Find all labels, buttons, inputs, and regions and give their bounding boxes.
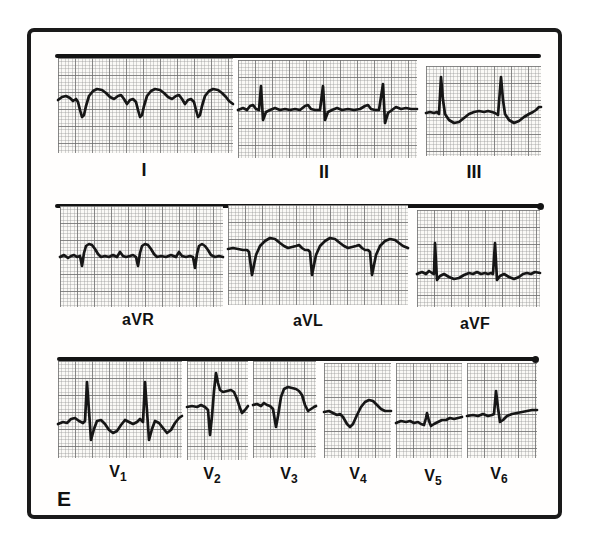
ecg-grid-panel-v4 [324, 363, 391, 458]
ecg-trace-v1 [58, 361, 182, 458]
ecg-grid-panel-v1 [58, 361, 182, 458]
lead-label-v4: V4 [349, 465, 366, 486]
ecg-grid-panel-v2 [187, 361, 248, 460]
ecg-trace-v6 [467, 363, 537, 458]
ecg-grid-panel-iii [426, 66, 541, 156]
figure-panel-label: E [57, 487, 71, 511]
lead-label-subscript-v3: 3 [291, 472, 298, 486]
lead-label-subscript-v6: 6 [501, 472, 508, 486]
ecg-trace-avf [417, 210, 540, 307]
lead-label-ii: II [319, 162, 329, 183]
lead-label-subscript-v2: 2 [214, 472, 221, 486]
lead-label-subscript-v4: 4 [360, 472, 367, 486]
lead-label-v5: V5 [424, 467, 441, 488]
ecg-trace-v5 [396, 363, 462, 458]
ecg-grid-panel-avr [60, 206, 223, 307]
ecg-trace-avr [60, 206, 223, 307]
ecg-trace-v4 [324, 363, 391, 458]
ecg-figure: IIIIIIaVRaVLaVFV1V2V3V4V5V6 E [0, 0, 589, 552]
ecg-trace-i [58, 58, 233, 153]
lead-label-v6: V6 [490, 465, 507, 486]
strip-rule-end-dot [537, 203, 544, 210]
lead-label-i: I [141, 160, 146, 181]
ecg-grid-panel-ii [238, 60, 417, 158]
ecg-grid-panel-v6 [467, 363, 537, 458]
ecg-grid-panel-i [58, 58, 233, 153]
ecg-trace-v2 [187, 361, 248, 460]
lead-label-subscript-v1: 1 [120, 470, 127, 484]
ecg-grid-panel-v3 [253, 361, 316, 458]
ecg-grid-panel-v5 [396, 363, 462, 458]
lead-label-v2: V2 [203, 465, 220, 486]
ecg-grid-panel-avf [417, 210, 540, 307]
ecg-trace-iii [426, 66, 541, 156]
lead-label-v3: V3 [280, 465, 297, 486]
strip-rule-end-dot [532, 356, 539, 363]
lead-label-v1: V1 [109, 463, 126, 484]
ecg-trace-ii [238, 60, 417, 158]
lead-label-avl: aVL [293, 312, 323, 330]
ecg-trace-avl [228, 205, 408, 305]
lead-label-subscript-v5: 5 [435, 474, 442, 488]
ecg-trace-v3 [253, 361, 316, 458]
ecg-grid-panel-avl [228, 205, 408, 305]
lead-label-avf: aVF [460, 315, 490, 333]
lead-label-iii: III [466, 162, 481, 183]
lead-label-avr: aVR [122, 311, 154, 329]
